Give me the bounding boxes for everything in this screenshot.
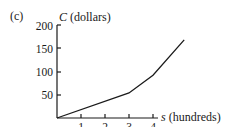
x-tick-label-3: 3 xyxy=(123,121,135,127)
y-axis-variable: C xyxy=(59,10,67,24)
x-axis-label: s (hundreds) xyxy=(161,111,221,123)
panel-label: (c) xyxy=(10,10,23,22)
x-tick-label-1: 1 xyxy=(75,121,87,127)
x-tick-label-2: 2 xyxy=(99,121,111,127)
y-axis-label: C (dollars) xyxy=(59,11,111,23)
y-tick-label-100: 100 xyxy=(23,66,53,78)
y-axis-unit: (dollars) xyxy=(70,10,111,24)
x-axis-unit: (hundreds) xyxy=(169,110,221,124)
x-tick-label-4: 4 xyxy=(147,121,159,127)
x-axis-variable: s xyxy=(161,110,166,124)
y-tick-label-50: 50 xyxy=(23,89,53,101)
cost-curve-line xyxy=(57,40,184,118)
y-tick-label-200: 200 xyxy=(23,20,53,32)
y-tick-label-150: 150 xyxy=(23,43,53,55)
